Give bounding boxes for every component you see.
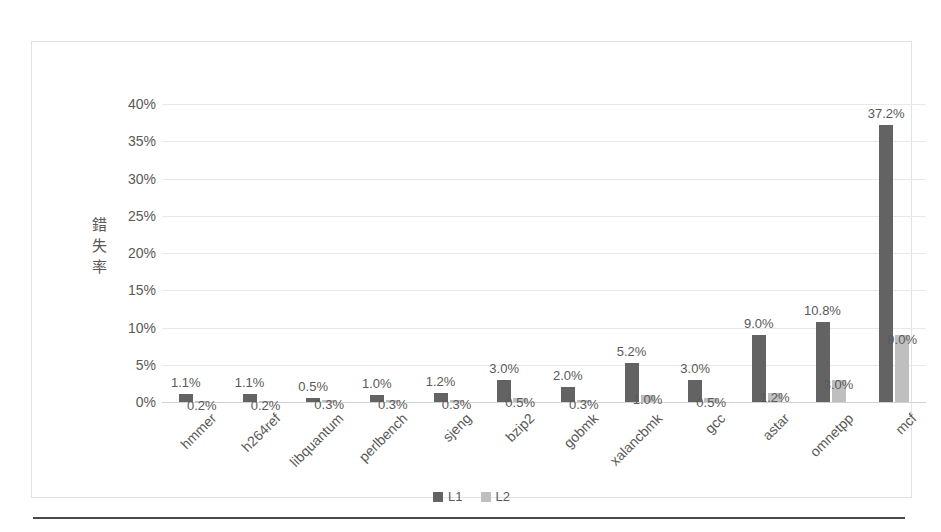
y-axis-tick-label: 30% — [106, 171, 156, 187]
bar-label-l1-gobmk: 2.0% — [553, 368, 583, 383]
legend-label-l2: L2 — [496, 489, 510, 504]
x-axis-label-libquantum: libquantum — [287, 410, 347, 470]
bar-label-l1-perlbench: 1.0% — [362, 376, 392, 391]
x-axis-label-gcc: gcc — [702, 410, 729, 437]
legend-item-l2[interactable]: L2 — [481, 489, 510, 504]
gridline — [162, 104, 926, 105]
x-axis-label-sjeng: sjeng — [439, 410, 474, 445]
y-axis-tick-label: 10% — [106, 320, 156, 336]
x-axis-label-h264ref: h264ref — [238, 410, 283, 455]
x-axis-label-gobmk: gobmk — [560, 410, 601, 451]
legend-label-l1: L1 — [448, 489, 462, 504]
bar-l1-mcf[interactable] — [879, 125, 893, 402]
chart-legend: L1L2 — [32, 489, 911, 504]
bar-label-l2-astar: 1.2% — [760, 390, 790, 405]
y-axis-tick-label: 5% — [106, 357, 156, 373]
y-axis-tick-label: 20% — [106, 245, 156, 261]
legend-swatch-l2 — [481, 492, 491, 502]
gridline — [162, 179, 926, 180]
chart-frame: 錯失率 40%35%30%25%20%15%10%5%0% 1.1%0.2%1.… — [31, 41, 912, 498]
x-axis-label-bzip2: bzip2 — [502, 410, 537, 445]
y-axis-tick-label: 0% — [106, 394, 156, 410]
bar-label-l1-bzip2: 3.0% — [489, 361, 519, 376]
bar-label-l2-mcf: 9.0% — [887, 332, 917, 347]
y-axis-tick-label: 25% — [106, 208, 156, 224]
x-axis-label-hmmer: hmmer — [177, 410, 219, 452]
bar-label-l1-h264ref: 1.1% — [235, 375, 265, 390]
gridline — [162, 290, 926, 291]
y-axis-tick-labels: 40%35%30%25%20%15%10%5%0% — [106, 104, 156, 402]
legend-item-l1[interactable]: L1 — [433, 489, 462, 504]
gridline — [162, 365, 926, 366]
bar-label-l1-libquantum: 0.5% — [298, 379, 328, 394]
bar-label-l1-omnetpp: 10.8% — [804, 303, 841, 318]
x-axis-label-mcf: mcf — [892, 410, 919, 437]
bar-label-l2-omnetpp: 3.0% — [824, 377, 854, 392]
x-axis-label-perlbench: perlbench — [355, 410, 410, 465]
x-axis-label-omnetpp: omnetpp — [806, 410, 856, 460]
bar-label-l1-hmmer: 1.1% — [171, 375, 201, 390]
x-axis-label-xalancbmk: xalancbmk — [606, 410, 665, 469]
gridline — [162, 216, 926, 217]
y-axis-tick-label: 35% — [106, 133, 156, 149]
plot-area: 1.1%0.2%1.1%0.2%0.5%0.3%1.0%0.3%1.2%0.3%… — [162, 104, 926, 402]
bottom-horizontal-rule — [33, 517, 905, 519]
y-axis-tick-label: 40% — [106, 96, 156, 112]
bar-label-l1-sjeng: 1.2% — [426, 374, 456, 389]
bar-label-l1-gcc: 3.0% — [680, 361, 710, 376]
x-axis-category-labels: hmmerh264reflibquantumperlbenchsjengbzip… — [162, 404, 926, 494]
x-axis-label-astar: astar — [759, 410, 792, 443]
bar-label-l1-astar: 9.0% — [744, 316, 774, 331]
gridline — [162, 328, 926, 329]
gridline — [162, 253, 926, 254]
bar-label-l1-xalancbmk: 5.2% — [617, 344, 647, 359]
legend-swatch-l1 — [433, 492, 443, 502]
gridline — [162, 141, 926, 142]
bar-label-l1-mcf: 37.2% — [868, 106, 905, 121]
y-axis-tick-label: 15% — [106, 282, 156, 298]
